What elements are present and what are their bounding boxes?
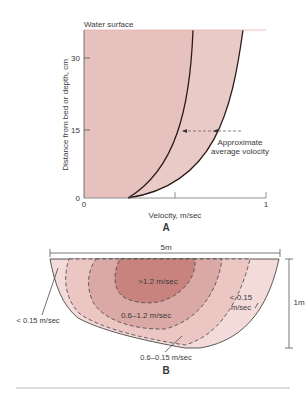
label-right-2: m/sec xyxy=(231,303,251,312)
water-surface-label: Water surface xyxy=(84,20,134,29)
annotation-line-2: average volocity xyxy=(211,147,269,156)
label-bottom: 0.6–0.15 m/sec xyxy=(140,353,192,362)
velocity-profile-chart: Water surface 30 15 0 0 1 Distance from … xyxy=(61,20,269,233)
x-axis-label: Velocity, m/sec xyxy=(149,211,202,220)
velocity-figure: Water surface 30 15 0 0 1 Distance from … xyxy=(0,0,306,393)
y-tick-label-30: 30 xyxy=(71,54,80,63)
depth-label: 1m xyxy=(293,298,304,307)
panel-label-a: A xyxy=(162,222,169,233)
width-label: 5m xyxy=(160,243,171,252)
label-right-1: < 0.15 xyxy=(230,293,253,302)
y-axis-label: Distance from bed or depth, cm xyxy=(61,59,70,171)
x-tick-label-1: 1 xyxy=(264,200,269,209)
y-tick-label-15: 15 xyxy=(71,126,80,135)
label-center: >1.2 m/sec xyxy=(138,277,177,286)
x-tick-label-0: 0 xyxy=(82,200,87,209)
label-mid: 0.6–1.2 m/sec xyxy=(121,311,171,320)
y-tick-label-0: 0 xyxy=(76,194,81,203)
annotation-line-1: Approximate xyxy=(218,138,263,147)
panel-label-b: B xyxy=(162,365,169,376)
label-left: < 0.15 m/sec xyxy=(16,316,59,325)
channel-cross-section: 5m 1m >1.2 m/sec 0.6–1.2 m/sec < 0.15 m/… xyxy=(16,243,304,376)
leader-left xyxy=(42,268,58,315)
